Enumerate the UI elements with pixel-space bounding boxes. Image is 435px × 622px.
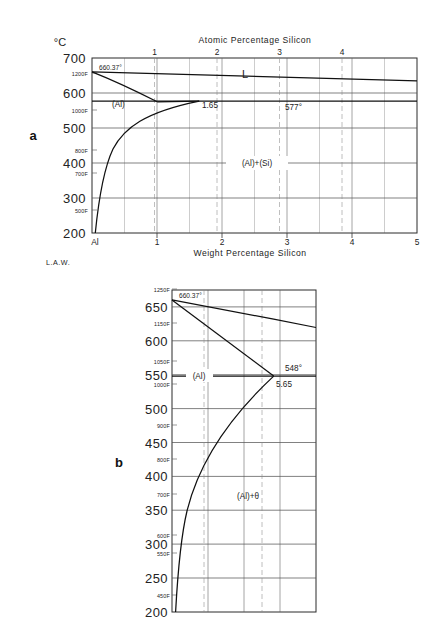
- panel-a-bottom-ticks: Al 1 2 3 4 5: [91, 237, 419, 247]
- panel-a-liquid-region-label: L: [242, 68, 248, 80]
- panel-a-top-axis-title: Atomic Percentage Silicon: [199, 35, 312, 45]
- panel-a-two-phase-region: (Al)+(Si): [226, 156, 288, 170]
- svg-text:600: 600: [145, 334, 168, 349]
- panel-b-solidus-curve: [172, 300, 274, 376]
- svg-text:800F: 800F: [75, 148, 89, 154]
- svg-text:500: 500: [145, 402, 168, 417]
- svg-text:1050F: 1050F: [154, 359, 171, 365]
- svg-text:500F: 500F: [75, 208, 89, 214]
- svg-text:1200F: 1200F: [72, 71, 89, 77]
- svg-text:4: 4: [340, 47, 345, 57]
- svg-text:700F: 700F: [75, 171, 89, 177]
- panel-a-bottom-axis-title: Weight Percentage Silicon: [193, 248, 306, 258]
- svg-text:450: 450: [145, 436, 168, 451]
- svg-text:550: 550: [145, 368, 168, 383]
- panel-b-eutectic-composition-label: 5.65: [276, 380, 292, 389]
- svg-text:1150F: 1150F: [154, 321, 170, 327]
- svg-text:400: 400: [63, 156, 86, 171]
- svg-text:600: 600: [63, 86, 86, 101]
- svg-text:800F: 800F: [157, 457, 171, 463]
- panel-b-vertical-gridlines: [208, 290, 280, 612]
- svg-text:550F: 550F: [157, 551, 171, 557]
- svg-text:1: 1: [152, 47, 157, 57]
- svg-text:4: 4: [350, 237, 355, 247]
- panel-b-y-minor-ticks: [172, 289, 177, 595]
- panel-a-y-minor-ticks: [92, 73, 97, 210]
- svg-text:400: 400: [145, 469, 168, 484]
- svg-text:700: 700: [63, 51, 86, 66]
- panel-a-letter: a: [29, 128, 37, 143]
- panel-b-two-phase-label: (Al)+θ: [237, 492, 260, 501]
- panel-b-letter: b: [115, 455, 123, 470]
- svg-text:700F: 700F: [157, 492, 171, 498]
- svg-text:1: 1: [155, 237, 160, 247]
- svg-text:1000F: 1000F: [154, 382, 171, 388]
- svg-text:300: 300: [145, 537, 168, 552]
- svg-text:2: 2: [215, 47, 220, 57]
- svg-text:350: 350: [145, 503, 168, 518]
- panel-a-bottom-tick-marks: [157, 233, 352, 238]
- svg-text:2: 2: [220, 237, 225, 247]
- svg-text:1250F: 1250F: [154, 287, 171, 293]
- panel-b-eutectic-temperature-label: 548°: [285, 364, 302, 373]
- svg-text:5: 5: [415, 237, 420, 247]
- panel-a-eutectic-temperature-label: 577°: [285, 103, 302, 112]
- panel-a-unit-celsius: °C: [54, 36, 66, 48]
- svg-text:3: 3: [277, 47, 282, 57]
- panel-b-atomic-gridlines: [204, 290, 262, 612]
- svg-text:1000F: 1000F: [72, 108, 89, 114]
- panel-b-svg: b 650 600 550: [0, 268, 435, 622]
- panel-a-eutectic-composition-label: 1.65: [202, 101, 218, 110]
- panel-a-melting-point-label: 660.37°: [99, 64, 122, 71]
- panel-a-solid-solution-label: (Al): [112, 100, 125, 109]
- svg-text:500: 500: [63, 121, 86, 136]
- svg-text:450F: 450F: [157, 593, 171, 599]
- panel-a-solvus-curve: [95, 101, 199, 233]
- svg-text:650: 650: [145, 300, 168, 315]
- panel-a-two-phase-label: (Al)+(Si): [242, 159, 273, 168]
- panel-a-figure: a °C Atomic Percentage Silicon Weight Pe…: [0, 0, 435, 268]
- panel-a-minor-gridlines: [125, 58, 385, 233]
- panel-a-atomic-gridlines: [155, 58, 343, 233]
- figure-signature: L.A.W.: [46, 258, 70, 267]
- panel-b-solid-solution-region: (Al): [186, 369, 213, 382]
- svg-text:300: 300: [63, 191, 86, 206]
- panel-b-solid-solution-label: (Al): [193, 372, 206, 381]
- panel-a-top-ticks: 1 2 3 4: [152, 47, 345, 57]
- svg-text:200: 200: [145, 605, 168, 620]
- panel-b-melting-point-label: 660.37°: [179, 292, 202, 299]
- panel-a-svg: a °C Atomic Percentage Silicon Weight Pe…: [0, 0, 435, 268]
- panel-b-figure: b 650 600 550: [0, 268, 435, 622]
- svg-text:3: 3: [285, 237, 290, 247]
- svg-text:900F: 900F: [157, 423, 171, 429]
- svg-text:200: 200: [63, 226, 86, 241]
- svg-text:600F: 600F: [157, 533, 171, 539]
- svg-text:250: 250: [145, 571, 168, 586]
- svg-text:Al: Al: [91, 237, 99, 247]
